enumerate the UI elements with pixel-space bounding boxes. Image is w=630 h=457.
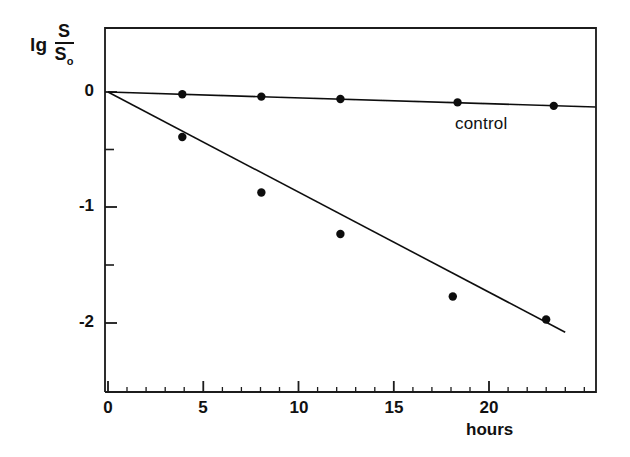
chart-figure: lg S So [0,0,630,457]
data-point [453,98,461,106]
data-point [257,92,265,100]
x-axis-title: hours [466,420,513,440]
data-point [449,292,457,300]
axes-frame [105,28,596,392]
data-point [178,90,186,98]
x-tick-label-5: 5 [189,398,217,418]
data-point [550,102,558,110]
data-point [257,188,265,196]
plot-canvas [0,0,630,457]
data-point [336,95,344,103]
y-axis-major-ticks [105,92,117,323]
x-tick-label-20: 20 [471,398,507,418]
x-tick-label-10: 10 [281,398,317,418]
series-label-control: control [455,114,507,134]
data-point [542,315,550,323]
data-point [336,230,344,238]
y-tick-label-0: 0 [64,81,94,101]
x-tick-label-0: 0 [94,398,122,418]
series-layer [108,90,596,332]
x-tick-label-15: 15 [376,398,412,418]
y-tick-label-minus1: -1 [60,196,94,216]
series-control [108,90,596,110]
data-point [178,133,186,141]
y-tick-label-minus2: -2 [60,312,94,332]
